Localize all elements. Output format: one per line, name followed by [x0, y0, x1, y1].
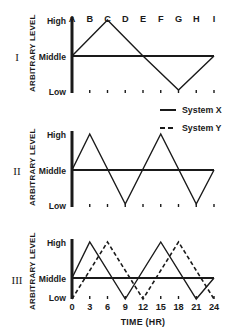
- panel-3-ytick-middle: Middle: [39, 274, 66, 284]
- panel-1: ARBITRARY LEVEL I High Middle Low: [15, 14, 215, 97]
- panel-2-x-ticks: [90, 204, 214, 207]
- time-label-0: 0: [69, 302, 74, 312]
- legend-label-system-y: System Y: [182, 123, 222, 133]
- column-label-d: D: [122, 14, 129, 24]
- time-label-12: 12: [138, 302, 148, 312]
- panel-3-ytick-low: Low: [49, 293, 66, 303]
- x-axis-title: TIME (HR): [121, 317, 166, 327]
- panel-2-y-axis-title: ARBITRARY LEVEL: [28, 128, 37, 206]
- legend-label-system-x: System X: [182, 105, 222, 115]
- panel-1-x-ticks: [90, 90, 214, 93]
- panel-2-numeral: II: [13, 165, 21, 177]
- panel-1-numeral: I: [15, 51, 19, 63]
- time-label-21: 21: [191, 302, 201, 312]
- column-label-f: F: [158, 14, 164, 24]
- time-label-6: 6: [105, 302, 110, 312]
- panel-1-ytick-middle: Middle: [39, 52, 66, 62]
- panel-3-ytick-high: High: [47, 238, 66, 248]
- column-label-i: I: [213, 14, 216, 24]
- column-label-g: G: [175, 14, 182, 24]
- column-label-a: A: [69, 14, 76, 24]
- time-label-15: 15: [156, 302, 166, 312]
- column-label-e: E: [140, 14, 146, 24]
- three-panel-waveform-chart: ARBITRARY LEVEL I High Middle Low: [0, 0, 237, 334]
- time-label-9: 9: [123, 302, 128, 312]
- legend: System X System Y: [160, 105, 222, 133]
- column-label-h: H: [193, 14, 200, 24]
- column-label-b: B: [86, 14, 93, 24]
- panel-2-ytick-middle: Middle: [39, 166, 66, 176]
- time-label-18: 18: [173, 302, 183, 312]
- panel-1-column-labels: A B C D E F G H I: [69, 14, 216, 24]
- panel-3-system-x-line: [72, 242, 214, 299]
- panel-3-time-labels: 0 3 6 9 12 15 18 21 24: [69, 302, 220, 312]
- time-label-24: 24: [209, 302, 220, 312]
- panel-1-y-axis-title: ARBITRARY LEVEL: [28, 14, 37, 92]
- panel-3: ARBITRARY LEVEL III High Middle Low: [12, 232, 220, 327]
- panel-2-ytick-high: High: [47, 130, 66, 140]
- panel-3-numeral: III: [12, 274, 23, 286]
- panel-3-y-axis-title: ARBITRARY LEVEL: [28, 232, 37, 310]
- time-label-3: 3: [87, 302, 92, 312]
- panel-2-ytick-low: Low: [49, 201, 66, 211]
- figure-container: ARBITRARY LEVEL I High Middle Low: [0, 0, 237, 334]
- panel-1-ytick-high: High: [47, 16, 66, 26]
- panel-2: ARBITRARY LEVEL II High Middle Low: [13, 128, 214, 211]
- panel-1-ytick-low: Low: [49, 87, 66, 97]
